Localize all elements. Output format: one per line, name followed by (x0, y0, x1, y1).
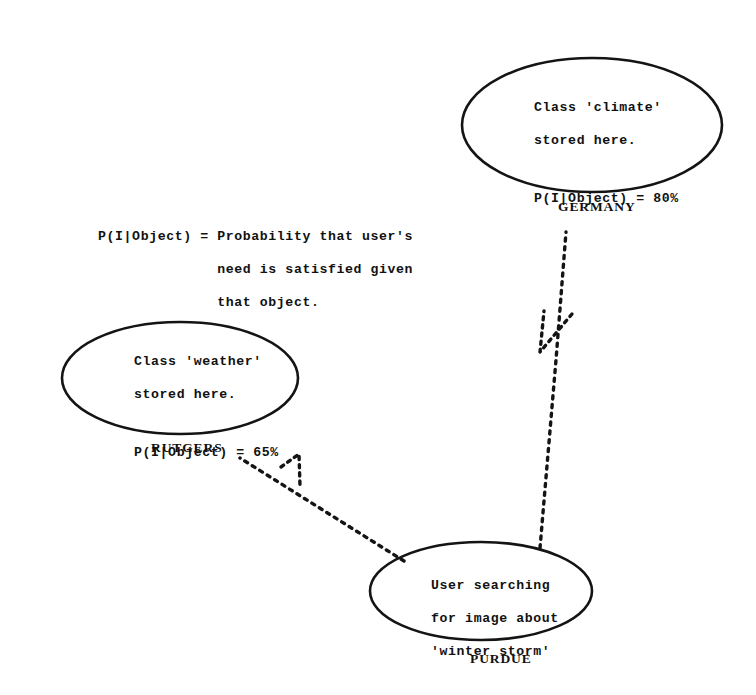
legend-line-2: need is satisfied given (98, 262, 413, 277)
rutgers-line-2: stored here. (134, 387, 236, 402)
legend-line-3: that object. (98, 295, 319, 310)
arrowhead-purdue-to-rutgers (281, 454, 300, 486)
purdue-line-1: User searching (431, 578, 550, 593)
legend-line-1: P(I|Object) = Probability that user's (98, 229, 413, 244)
germany-line-2: stored here. (534, 133, 636, 148)
connector-purdue-to-germany (540, 232, 566, 548)
legend-definition: P(I|Object) = Probability that user's ne… (64, 212, 413, 328)
germany-line-1: Class 'climate' (534, 100, 662, 115)
rutgers-text-spacer (100, 420, 279, 429)
diagram-canvas: Class 'climate' stored here. P(I|Object)… (0, 0, 756, 695)
node-text-rutgers: Class 'weather' stored here. P(I|Object)… (100, 337, 279, 478)
site-label-purdue: PURDUE (470, 651, 532, 667)
germany-text-spacer (500, 166, 679, 175)
purdue-line-2: for image about (431, 611, 559, 626)
rutgers-line-1: Class 'weather' (134, 354, 262, 369)
site-label-germany: GERMANY (558, 199, 636, 215)
site-label-rutgers: RUTGERS (151, 440, 223, 456)
